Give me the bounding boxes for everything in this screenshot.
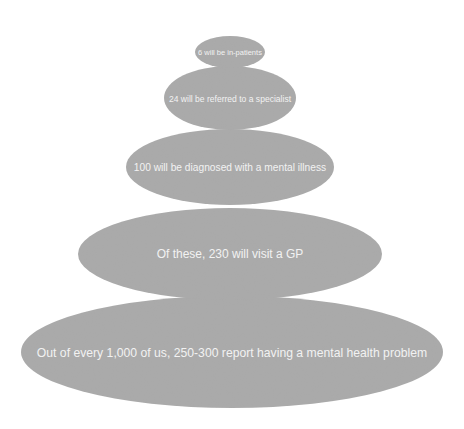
stone-label-gp: Of these, 230 will visit a GP xyxy=(157,247,304,261)
stone-label-report: Out of every 1,000 of us, 250-300 report… xyxy=(37,345,427,360)
stone-label-diagnosed: 100 will be diagnosed with a mental illn… xyxy=(134,161,326,173)
stone-level-5: Out of every 1,000 of us, 250-300 report… xyxy=(21,296,443,408)
stone-level-4: Of these, 230 will visit a GP xyxy=(78,208,382,300)
stone-level-3: 100 will be diagnosed with a mental illn… xyxy=(126,129,334,205)
stones-svg: Out of every 1,000 of us, 250-300 report… xyxy=(0,0,464,429)
stone-label-in-patients: 6 will be in-patients xyxy=(198,48,262,57)
stone-level-1: 6 will be in-patients xyxy=(195,36,265,68)
stone-level-2: 24 will be referred to a specialist xyxy=(164,66,296,130)
stacked-stones-diagram: Out of every 1,000 of us, 250-300 report… xyxy=(0,0,464,429)
stone-label-specialist: 24 will be referred to a specialist xyxy=(169,93,291,104)
